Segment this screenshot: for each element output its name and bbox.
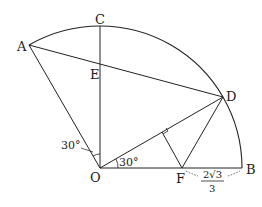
label-E: E [90, 67, 100, 82]
segment-DF [182, 97, 223, 168]
segment-F-foot [162, 132, 182, 168]
label-O: O [90, 170, 101, 185]
label-C: C [95, 12, 105, 27]
angle-leader [81, 148, 93, 152]
angle-mark-DOB [116, 159, 118, 168]
label-F: F [176, 171, 185, 186]
label-B: B [246, 162, 256, 177]
geometry-figure: A B C D E F O 30° 30° 2√3 3 [0, 0, 262, 207]
angle-label-AOC: 30° [61, 139, 81, 152]
angle-label-DOB: 30° [119, 156, 139, 169]
segment-AD [29, 45, 223, 97]
length-FB-numerator: 2√3 [203, 169, 222, 180]
angle-mark-AOC [93, 154, 100, 156]
length-FB-denominator: 3 [209, 183, 215, 194]
label-A: A [16, 39, 27, 54]
label-D: D [226, 89, 236, 104]
